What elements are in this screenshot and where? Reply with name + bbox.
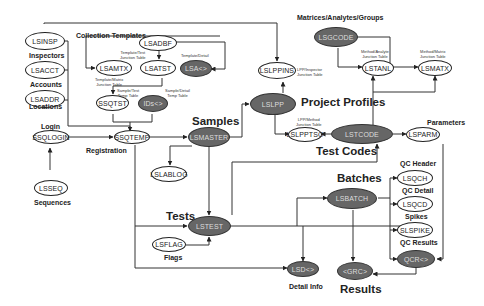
- label-qc-results: QC Results: [400, 239, 438, 246]
- node-lsmaster[interactable]: LSMASTER: [188, 127, 230, 147]
- note-line: Junction Table: [120, 55, 146, 60]
- node-ssqlogin[interactable]: SSQLOGIN: [33, 130, 69, 144]
- note-line: Junction Table: [296, 122, 322, 127]
- label-qc-header: QC Header: [400, 160, 436, 167]
- node-lstest[interactable]: LSTEST: [188, 216, 231, 236]
- label-results: Results: [340, 283, 382, 295]
- label-project-profiles: Project Profiles: [301, 96, 385, 108]
- node-slspike[interactable]: SLSPIKE: [397, 222, 433, 238]
- node-lslppins[interactable]: LSLPPINS: [258, 62, 296, 79]
- note-method-analyte: Method/AnalyteJunction Table: [361, 50, 389, 59]
- label-spikes: Spikes: [405, 213, 428, 220]
- label-matrices: Matrices/Analytes/Groups: [297, 14, 383, 21]
- node-lsparm[interactable]: LSPARM: [406, 127, 440, 142]
- node-ssqtst[interactable]: SSQTST: [96, 95, 129, 111]
- note-method-matrix: Method/MatrixJunction Table: [420, 50, 446, 59]
- note-line: Junction Table: [297, 72, 323, 77]
- label-sequences: Sequences: [34, 199, 71, 206]
- node-lstanl[interactable]: LSTANL: [362, 60, 394, 76]
- label-test-codes: Test Codes: [316, 145, 377, 157]
- node-lslablog[interactable]: LSLABLOG: [151, 166, 187, 182]
- node-lsinsp[interactable]: LSINSP: [25, 32, 65, 50]
- node-lslpp[interactable]: LSLPP: [250, 93, 296, 115]
- node-lsbatch[interactable]: LSBATCH: [327, 188, 377, 209]
- note-sample-detail: Sample/DetailTemp Table: [165, 89, 190, 98]
- node-ids[interactable]: IDs<>: [138, 95, 168, 112]
- node-qcr[interactable]: QCR<>: [397, 250, 435, 268]
- note-template-detail: Template/Detail: [181, 54, 209, 59]
- label-collection-templates: Collection Templates: [76, 32, 146, 39]
- label-accounts: Accounts: [30, 81, 62, 88]
- node-lslpptso[interactable]: LSLPPTSO: [288, 127, 322, 142]
- node-lsflag[interactable]: LSFLAG: [152, 237, 186, 252]
- note-line: Junction Table: [362, 54, 388, 59]
- node-lstcode[interactable]: LSTCODE: [331, 124, 393, 144]
- note-line: Junction Table: [96, 82, 122, 87]
- label-samples: Samples: [192, 115, 239, 127]
- label-parameters: Parameters: [427, 119, 465, 126]
- node-lsamtx[interactable]: LSAMTX: [96, 60, 132, 76]
- label-locations: Locations: [29, 103, 62, 110]
- note-lpp-method: LPP/MethodJunction Table: [296, 118, 322, 127]
- node-lsgcode[interactable]: LSGCODE: [314, 27, 358, 47]
- node-lsd[interactable]: LSD<>: [287, 261, 319, 277]
- label-batches: Batches: [337, 172, 382, 184]
- note-line: Temp Table: [167, 93, 187, 98]
- node-lsqch[interactable]: LSQCH: [397, 170, 433, 186]
- label-detail-info: Detail Info: [289, 283, 323, 290]
- node-ssqtemp[interactable]: SSQTEMP: [114, 130, 150, 144]
- label-registration: Registration: [86, 147, 127, 154]
- node-lsmatx[interactable]: LSMATX: [418, 60, 452, 76]
- note-template-test: Template/TestJunction Table: [120, 51, 146, 60]
- node-lsseq[interactable]: LSSEQ: [34, 180, 68, 196]
- node-lsqcd[interactable]: LSQCD: [397, 196, 433, 212]
- node-grc[interactable]: <GRC>: [337, 262, 373, 280]
- note-line: Junction Table: [420, 54, 446, 59]
- node-lsatst[interactable]: LSATST: [140, 60, 176, 76]
- node-lsa-detail[interactable]: LSA<>: [180, 60, 212, 77]
- node-lsacct[interactable]: LSACCT: [25, 61, 65, 79]
- label-login: Login: [41, 123, 60, 130]
- label-inspectors: Inspectors: [29, 52, 64, 59]
- label-flags: Flags: [164, 254, 182, 261]
- note-lpp-inspector: LPP/InspectorJunction Table: [297, 68, 323, 77]
- label-qc-detail: QC Detail: [402, 187, 434, 194]
- node-lsadbf[interactable]: LSADBF: [139, 35, 177, 51]
- note-template-matrix: Template/MatrixJunction Table: [95, 78, 123, 87]
